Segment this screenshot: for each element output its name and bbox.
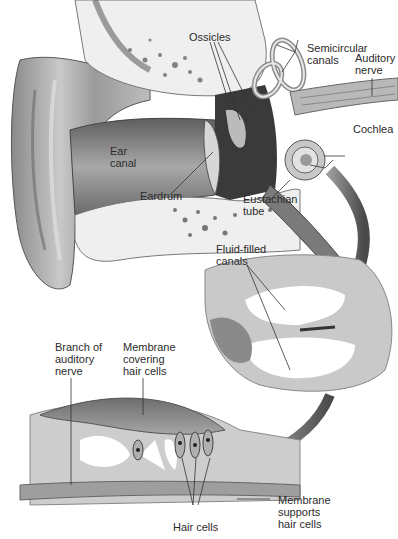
label-line: Eustachian — [243, 193, 297, 205]
label-ear-canal: Ear canal — [110, 145, 136, 169]
label-cochlea: Cochlea — [353, 123, 393, 135]
ear-anatomy-diagram: Ossicles Semicircular canals Auditory ne… — [0, 0, 398, 539]
ear-illustration — [0, 0, 398, 539]
label-line: Branch of — [55, 341, 102, 353]
label-auditory-nerve: Auditory nerve — [355, 52, 395, 76]
label-fluid-filled-canals: Fluid-filled canals — [216, 243, 266, 267]
label-line: canals — [216, 255, 266, 267]
label-hair-cells: Hair cells — [173, 521, 218, 533]
organ-of-corti-detail — [20, 398, 300, 505]
label-line: canal — [110, 157, 136, 169]
label-line: nerve — [55, 365, 102, 377]
label-membrane-covering-hair-cells: Membrane covering hair cells — [123, 341, 176, 377]
label-eardrum: Eardrum — [140, 190, 182, 202]
label-ossicles: Ossicles — [189, 31, 231, 43]
label-line: hair cells — [278, 518, 331, 530]
label-line: tube — [243, 205, 297, 217]
label-line: Fluid-filled — [216, 243, 266, 255]
label-line: supports — [278, 506, 331, 518]
cochlea-shape — [285, 140, 325, 180]
label-line: Ear — [110, 145, 136, 157]
label-membrane-supports-hair-cells: Membrane supports hair cells — [278, 494, 331, 530]
label-branch-of-auditory-nerve: Branch of auditory nerve — [55, 341, 102, 377]
label-line: nerve — [355, 64, 395, 76]
label-line: Auditory — [355, 52, 395, 64]
label-line: Membrane — [278, 494, 331, 506]
label-line: auditory — [55, 353, 102, 365]
label-line: hair cells — [123, 365, 176, 377]
label-line: Membrane — [123, 341, 176, 353]
cochlea-cross-section — [205, 255, 392, 391]
label-line: covering — [123, 353, 176, 365]
label-eustachian-tube: Eustachian tube — [243, 193, 297, 217]
